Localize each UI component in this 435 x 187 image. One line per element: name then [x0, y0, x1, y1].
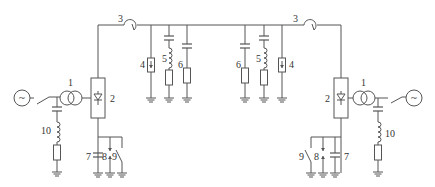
- left-lc-filter: 5: [162, 25, 174, 102]
- left-smoothing-reactor-icon: 3: [118, 13, 136, 30]
- left-label-6: 6: [178, 59, 183, 70]
- right-label-6: 6: [236, 59, 241, 70]
- left-label-4: 4: [140, 59, 145, 70]
- left-label-7: 7: [86, 151, 91, 162]
- left-ac-source-icon: ~: [14, 90, 30, 106]
- svg-text:~: ~: [18, 93, 26, 103]
- right-smoothing-reactor-icon: 3: [293, 13, 316, 30]
- left-converter-valve: 2: [91, 25, 115, 118]
- right-c-filter: 6: [236, 25, 250, 102]
- left-label-3: 3: [118, 13, 123, 24]
- left-c-filter: 6: [178, 25, 192, 102]
- left-label-1: 1: [68, 77, 73, 88]
- right-ac-filter: 10: [373, 98, 395, 176]
- left-transformer-icon: 1: [60, 77, 82, 105]
- right-label-8: 8: [314, 151, 319, 162]
- left-breaker-icon: [37, 97, 49, 104]
- hvdc-circuit-diagram: 3 3 4 5 6: [0, 0, 435, 187]
- right-label-2: 2: [325, 93, 330, 104]
- left-label-9: 9: [112, 151, 117, 162]
- left-label-10: 10: [41, 125, 51, 136]
- left-neutral-bus: 7 8 9: [86, 118, 127, 177]
- left-arrester: 4: [140, 25, 156, 102]
- right-arrester: 4: [277, 25, 294, 102]
- right-lc-filter: 5: [256, 25, 269, 102]
- right-label-3: 3: [293, 13, 298, 24]
- right-label-4: 4: [289, 59, 294, 70]
- right-ac-source-icon: ~: [406, 90, 422, 106]
- left-label-8: 8: [102, 151, 107, 162]
- left-ac-filter: 10: [41, 97, 62, 176]
- right-transformer-icon: 1: [353, 77, 375, 105]
- right-label-7: 7: [344, 151, 349, 162]
- right-label-5: 5: [256, 53, 261, 64]
- right-label-10: 10: [385, 128, 395, 139]
- right-label-9: 9: [299, 151, 304, 162]
- right-converter-valve: 2: [325, 25, 348, 118]
- right-neutral-bus: 7 8 9: [299, 118, 349, 177]
- left-label-5: 5: [162, 53, 167, 64]
- svg-text:~: ~: [410, 93, 418, 103]
- right-breaker-icon: [391, 97, 402, 103]
- left-label-2: 2: [110, 93, 115, 104]
- right-label-1: 1: [361, 77, 366, 88]
